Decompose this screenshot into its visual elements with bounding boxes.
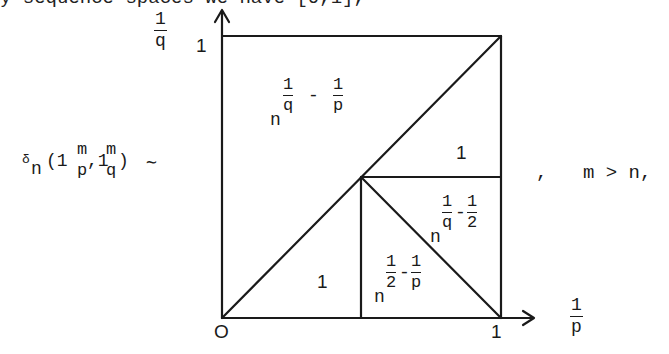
region-lower-left-label: 1 [317,272,328,291]
exp-numerator: 1 [283,76,293,93]
exp-denominator: 2 [467,214,477,231]
exponent-fraction-2: 1 p [333,76,343,114]
lhs-expression: δ n (1 m p ,1 m q ) ∼ [22,146,222,186]
exp-denominator: p [333,97,343,114]
exp-denominator: q [442,214,452,231]
region-right-mid-label: 1 [456,143,467,162]
exp-numerator: 1 [411,253,421,270]
y-label-numerator: 1 [154,10,167,28]
lhs-sub-p: p [77,161,87,180]
exponent-fraction-2: 1 2 [467,193,477,231]
exponent-minus: - [399,263,410,283]
x-label-numerator: 1 [570,296,583,314]
lhs-open: (1 [46,151,68,171]
rhs-comma: , [536,164,547,183]
x-label-denominator: p [570,318,583,336]
exponent-fraction-1: 1 q [442,193,452,231]
exponent-minus: - [455,203,466,223]
condition-m-greater-n: m > n, [583,164,651,183]
exponent-minus: - [308,86,319,106]
exp-numerator: 1 [442,193,452,210]
exponent-fraction-1: 1 2 [386,253,396,291]
lhs-sub-q: q [106,161,116,180]
region-base-n: n [270,110,281,130]
y-axis-label: 1 q [154,10,167,50]
exp-numerator: 1 [333,76,343,93]
region-base-n: n [430,227,441,247]
lhs-sup-m-1: m [77,140,87,159]
exp-denominator: q [283,97,293,114]
exp-numerator: 1 [467,193,477,210]
x-tick-1: 1 [491,322,502,341]
region-upper-left-label: n 1 q - 1 p [270,76,380,136]
delta-symbol: δ [22,152,30,167]
lhs-sup-m-2: m [106,140,116,159]
exp-denominator: 2 [386,274,396,291]
exp-numerator: 1 [386,253,396,270]
delta-subscript-n: n [31,159,42,179]
x-axis-label: 1 p [570,296,583,336]
y-label-denominator: q [154,32,167,50]
y-tick-1: 1 [196,36,207,55]
region-right-triangle-label: n 1 q - 1 2 [430,193,500,253]
region-base-n: n [374,287,385,307]
region-lower-mid-label: n 1 2 - 1 p [374,253,444,313]
lhs-close: ) [118,151,129,171]
exponent-fraction-2: 1 p [411,253,421,291]
exp-denominator: p [411,274,421,291]
exponent-fraction-1: 1 q [283,76,293,114]
sim-symbol: ∼ [146,151,157,173]
origin-label: O [214,322,229,341]
